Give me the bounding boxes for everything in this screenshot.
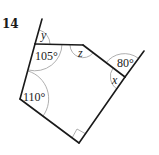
angle-label-80: 80° <box>117 56 134 70</box>
polygon-edges <box>20 19 144 143</box>
edge-bottom <box>20 99 79 143</box>
angle-label-y: y <box>40 28 47 42</box>
edge-lower-right <box>79 77 125 143</box>
polygon-angle-diagram: 14 y 105° z 80° x 110° <box>0 0 159 155</box>
angle-label-x: x <box>111 73 118 87</box>
angle-arcs <box>28 30 138 138</box>
angle-label-105: 105° <box>35 49 58 63</box>
problem-number: 14 <box>2 17 19 31</box>
edge-top <box>35 44 83 45</box>
angle-label-110: 110° <box>23 90 46 104</box>
angle-label-z: z <box>77 46 83 60</box>
